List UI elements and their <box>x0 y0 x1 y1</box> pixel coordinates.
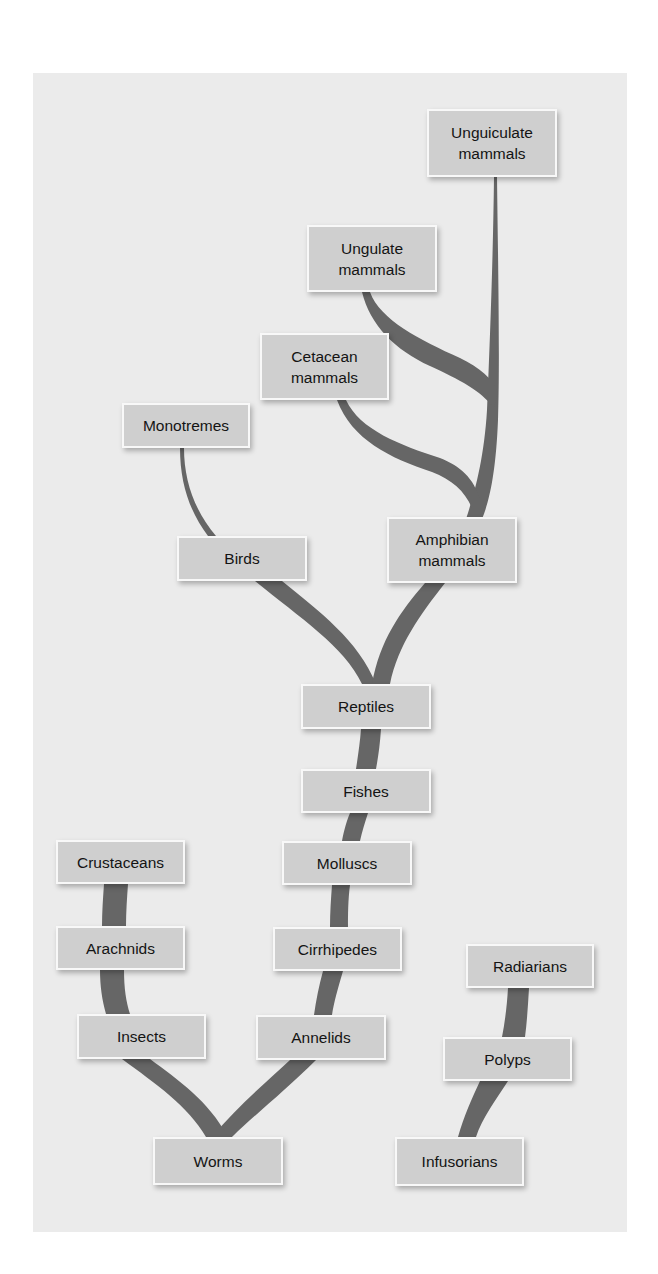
node-molluscs: Molluscs <box>282 841 412 885</box>
node-unguiculate-mammals: Unguiculate mammals <box>427 109 557 177</box>
node-insects: Insects <box>77 1014 206 1059</box>
node-reptiles: Reptiles <box>301 684 431 729</box>
node-radiarians: Radiarians <box>466 944 594 988</box>
node-annelids: Annelids <box>256 1015 386 1060</box>
node-monotremes: Monotremes <box>122 403 250 448</box>
branch-insects-arachnids <box>100 970 130 1014</box>
branch-birds-monotremes <box>180 448 216 536</box>
node-cirrhipedes: Cirrhipedes <box>273 927 402 971</box>
branch-molluscs-fishes <box>342 813 368 841</box>
branch-polyps-infusorians <box>458 1081 508 1137</box>
branch-fishes-reptiles <box>356 729 381 769</box>
branch-amphibian-cetacean <box>337 400 480 508</box>
node-ungulate-mammals: Ungulate mammals <box>307 225 437 292</box>
branch-arachnids-crustaceans <box>102 884 128 926</box>
node-infusorians: Infusorians <box>395 1137 524 1186</box>
tree-branches <box>0 0 658 1274</box>
node-cetacean-mammals: Cetacean mammals <box>260 333 389 400</box>
branch-reptiles-amphibian <box>372 583 445 684</box>
branch-amphibian-unguiculate <box>466 177 499 519</box>
node-polyps: Polyps <box>443 1037 572 1081</box>
branch-worms-insects <box>122 1059 228 1137</box>
branch-worms-annelids <box>212 1060 316 1137</box>
branch-reptiles-birds <box>255 581 376 684</box>
node-amphibian-mammals: Amphibian mammals <box>387 517 517 583</box>
node-arachnids: Arachnids <box>56 926 185 970</box>
branch-cirrhipedes-molluscs <box>330 885 350 927</box>
branch-annelids-cirrhipedes <box>314 971 343 1015</box>
node-birds: Birds <box>177 536 307 581</box>
node-fishes: Fishes <box>301 769 431 813</box>
branch-radiarians-polyps <box>502 988 529 1037</box>
node-worms: Worms <box>153 1137 283 1185</box>
node-crustaceans: Crustaceans <box>56 840 185 884</box>
